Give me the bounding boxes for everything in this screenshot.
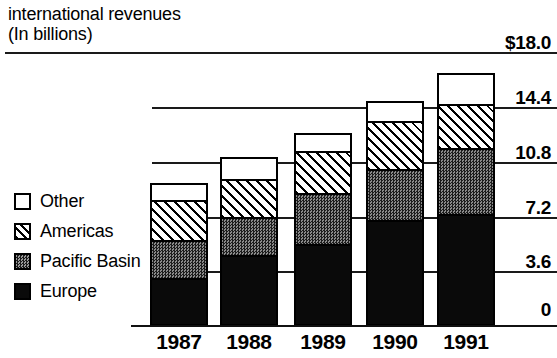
diagonal-hatch-swatch-icon <box>14 223 31 240</box>
bar-segment-other-1988 <box>222 159 276 179</box>
legend-label-europe: Europe <box>40 281 97 301</box>
x-axis-tick-1991: 1991 <box>434 330 498 354</box>
bar-segment-americas-1989 <box>296 151 350 195</box>
bar-segment-pacific-basin-1987 <box>152 242 206 278</box>
bar-segment-pacific-basin-1990 <box>368 171 422 220</box>
bar-segment-other-1989 <box>296 135 350 151</box>
bar-segment-pacific-basin-1991 <box>439 150 493 214</box>
solid-black-swatch-icon <box>14 283 31 300</box>
bar-segment-other-1991 <box>439 75 493 104</box>
chart-figure: international revenues (In billions) $18… <box>0 0 557 358</box>
bar-segment-americas-1991 <box>439 104 493 150</box>
bar-segment-pacific-basin-1988 <box>222 219 276 255</box>
x-axis-tick-1989: 1989 <box>291 330 355 354</box>
legend-item-other: Other <box>14 186 154 216</box>
bar-segment-europe-1987 <box>152 278 206 324</box>
x-axis-baseline <box>131 325 557 327</box>
legend-label-pacific-basin: Pacific Basin <box>40 251 140 271</box>
bar-segment-europe-1990 <box>368 220 422 324</box>
legend-item-americas: Americas <box>14 216 154 246</box>
x-axis-tick-1987: 1987 <box>147 330 211 354</box>
legend-item-pacific-basin: Pacific Basin <box>14 246 154 276</box>
bar-segment-europe-1991 <box>439 214 493 324</box>
bar-segment-other-1987 <box>152 185 206 200</box>
bar-segment-europe-1988 <box>222 255 276 324</box>
bar-1989[interactable] <box>294 133 352 326</box>
bar-1990[interactable] <box>366 101 424 326</box>
stippled-gray-swatch-icon <box>14 253 31 270</box>
bar-1988[interactable] <box>220 157 278 326</box>
bar-segment-americas-1987 <box>152 200 206 242</box>
legend-item-europe: Europe <box>14 276 154 306</box>
bar-segment-americas-1988 <box>222 179 276 219</box>
bar-segment-americas-1990 <box>368 121 422 171</box>
bar-segment-europe-1989 <box>296 244 350 324</box>
chart-legend: Other Americas Pacific Basin Europe <box>14 186 154 306</box>
bar-1987[interactable] <box>150 183 208 326</box>
bar-segment-other-1990 <box>368 103 422 121</box>
x-axis-tick-1988: 1988 <box>217 330 281 354</box>
x-axis-tick-1990: 1990 <box>363 330 427 354</box>
bar-segment-pacific-basin-1989 <box>296 195 350 244</box>
bar-1991[interactable] <box>437 73 495 326</box>
open-square-swatch-icon <box>14 193 31 210</box>
legend-label-other: Other <box>40 191 84 211</box>
legend-label-americas: Americas <box>40 221 113 241</box>
